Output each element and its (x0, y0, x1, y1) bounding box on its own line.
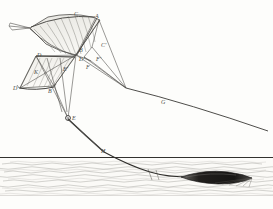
label-C: C (74, 11, 78, 17)
label-E-prime: E' (63, 66, 68, 72)
diagram-canvas (0, 0, 273, 209)
label-F: F (86, 64, 90, 70)
label-G: G (161, 99, 165, 105)
tow-line-G (126, 88, 268, 131)
label-K: K (34, 69, 38, 75)
label-A: A (95, 13, 99, 19)
label-C-prime: C' (101, 42, 106, 48)
label-D-prime: D' (79, 56, 85, 62)
anchor-line-EH-highlight (68, 119, 104, 152)
engraving-plate: C A C' B D' D F' F E' K D B E G H (0, 0, 273, 209)
label-D-lower: D (13, 85, 17, 91)
label-E: E (72, 115, 76, 121)
label-B-lower: B (48, 88, 52, 94)
label-D-upper: D (37, 52, 41, 58)
label-F-prime: F' (96, 56, 101, 62)
label-H: H (101, 148, 105, 154)
label-B-upper: B (79, 47, 83, 53)
